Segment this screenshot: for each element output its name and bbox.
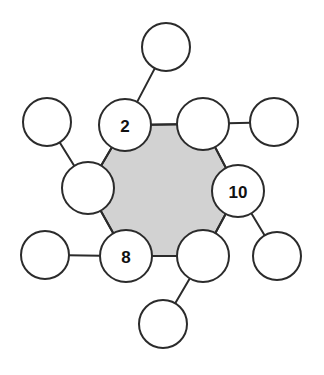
node-circle-satellite-lower-left[interactable] bbox=[21, 231, 69, 279]
node-label-ring-top-left: 2 bbox=[120, 117, 129, 136]
spoke-edge-ring-top-right-to-satellite-upper-right bbox=[228, 123, 251, 124]
spoke-edge-ring-top-left-to-satellite-top bbox=[137, 67, 156, 103]
node-circle-satellite-lower-right[interactable] bbox=[253, 232, 301, 280]
node-circle-ring-bottom-right[interactable] bbox=[177, 230, 229, 282]
node-circle-satellite-bottom[interactable] bbox=[139, 300, 187, 348]
node-label-ring-right: 10 bbox=[229, 183, 248, 202]
node-circle-ring-left[interactable] bbox=[62, 162, 114, 214]
diagram-canvas: 2108 bbox=[0, 0, 324, 375]
node-circle-satellite-top[interactable] bbox=[142, 23, 190, 71]
node-circle-satellite-upper-left[interactable] bbox=[23, 98, 71, 146]
spoke-edge-ring-left-to-satellite-upper-left bbox=[59, 142, 75, 167]
spoke-edge-ring-bottom-right-to-satellite-bottom bbox=[175, 278, 191, 305]
spoke-edge-ring-right-to-satellite-lower-right bbox=[251, 212, 265, 236]
hexagon-node-diagram: 2108 bbox=[0, 0, 324, 375]
node-circle-ring-top-right[interactable] bbox=[177, 98, 229, 150]
node-circle-satellite-upper-right[interactable] bbox=[250, 98, 298, 146]
node-label-ring-bottom-left: 8 bbox=[121, 248, 130, 267]
